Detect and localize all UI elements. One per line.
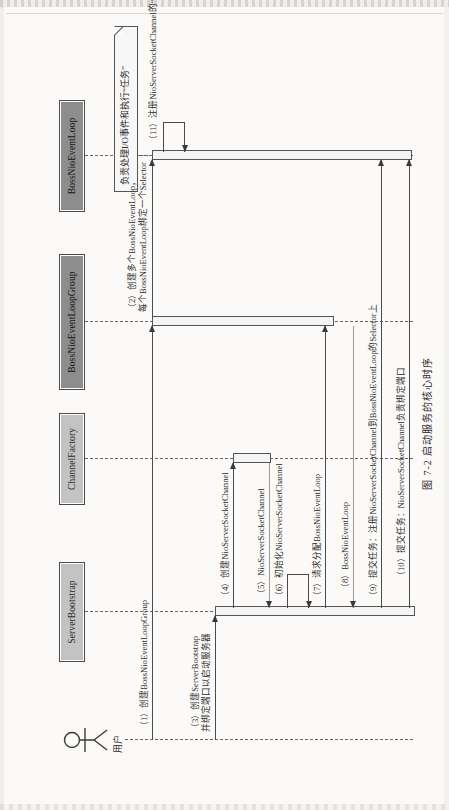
activation-channelfactory xyxy=(233,453,271,463)
message-7-line xyxy=(325,326,326,608)
message-6-label: （6）初始化NioServerSocketChannel xyxy=(274,463,285,600)
actor-user-label: 用户 xyxy=(111,735,124,753)
lifeline-head-channelfactory[interactable]: ChannelFactory xyxy=(59,413,85,505)
message-8-label: （8）BossNioEventLoop xyxy=(340,502,351,592)
sequence-diagram-canvas: 用户 ServerBootstrap ChannelFactory BossNi… xyxy=(15,20,435,790)
message-1-arrowhead xyxy=(148,325,154,332)
message-5-arrowhead xyxy=(265,601,271,608)
lifeline-actor xyxy=(125,739,413,740)
activation-bossnioeventloop xyxy=(152,150,412,160)
message-1-line xyxy=(152,326,153,740)
message-3-line xyxy=(215,616,216,740)
message-11-label: （11）注册NioServerSocketChannel的“读”事件 xyxy=(148,0,159,144)
message-9-arrowhead xyxy=(377,159,383,166)
message-10-label: （10）提交任务：NioServerSocketChannel负责绑定端口 xyxy=(396,367,407,580)
message-7-label: （7）请求分配BossNioEventLoop xyxy=(312,474,323,600)
message-5-line xyxy=(269,463,270,608)
message-1-label: （1）创建BossNioEventLoopGroup xyxy=(139,600,150,730)
activation-serverbootstrap xyxy=(215,606,415,616)
actor-user xyxy=(63,720,113,760)
message-10-line xyxy=(409,160,410,608)
message-2-arrowhead xyxy=(148,159,154,166)
message-8-arrowhead xyxy=(349,601,355,608)
activation-bossnioeventloopgroup xyxy=(152,316,334,326)
message-3-arrowhead xyxy=(211,615,217,622)
message-4-line xyxy=(233,463,234,608)
message-4-label: （4）创建NioServerSocketChannel xyxy=(220,472,231,600)
lifeline-head-serverbootstrap[interactable]: ServerBootstrap xyxy=(59,562,85,662)
message-10-arrowhead xyxy=(405,159,411,166)
message-8-line xyxy=(353,326,354,608)
message-9-line xyxy=(381,160,382,608)
lifeline-head-bossnioeventloop[interactable]: BossNioEventLoop xyxy=(59,100,85,212)
figure-caption: 图 7-2 启动服务的核心时序 xyxy=(419,357,434,490)
message-11-arrowhead xyxy=(181,145,187,152)
message-4-arrowhead xyxy=(229,462,235,469)
message-2-line xyxy=(152,160,153,318)
message-9-label: （9）提交任务：注册NioServerSocketChannel到BossNio… xyxy=(368,304,379,600)
message-7-arrowhead xyxy=(321,325,327,332)
message-2-label: （2）创建多个BossNioEventLoop， 每个BossNioEventL… xyxy=(127,152,148,312)
message-6-arrowhead xyxy=(305,601,311,608)
rotated-page-wrapper: 用户 ServerBootstrap ChannelFactory BossNi… xyxy=(0,0,449,810)
stick-figure-actor-icon xyxy=(63,720,109,760)
message-5-label: （5）NioServerSocketChannel xyxy=(256,488,267,598)
lifeline-head-bossnioeventloopgroup[interactable]: BossNioEventLoopGroup xyxy=(59,254,85,390)
message-3-label: （3）创建ServerBootstrap 并绑定端口以启动服务器 xyxy=(190,602,211,732)
